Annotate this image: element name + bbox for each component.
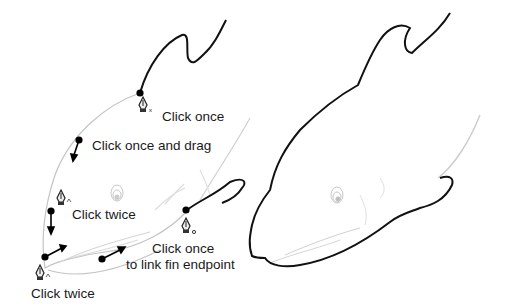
- pen-tool-icon-4: [36, 265, 50, 280]
- left-dolphin-eye: [111, 185, 123, 201]
- pen-tool-icon-1: x: [139, 97, 152, 113]
- pen-tool-icon-2: [57, 190, 71, 205]
- left-dorsal-fin-path: [140, 20, 226, 93]
- right-dolphin-outline-path: [250, 13, 453, 266]
- anchor-top: [136, 89, 143, 96]
- anchor-fin: [182, 206, 189, 213]
- label-click-once: Click once: [162, 109, 224, 124]
- dolphin-pen-tool-diagram: x: [0, 0, 505, 308]
- label-click-once-and-drag: Click once and drag: [92, 138, 211, 153]
- label-click-twice-lower: Click twice: [31, 286, 95, 301]
- left-pectoral-fin-path: [187, 180, 244, 210]
- label-click-once-link-line1: Click once: [152, 241, 214, 256]
- right-dolphin-sketch: [272, 115, 480, 262]
- pen-tool-icon-3: [182, 218, 196, 234]
- label-click-once-link-line2: to link fin endpoint: [126, 257, 235, 272]
- label-click-twice-upper: Click twice: [72, 207, 136, 222]
- svg-text:x: x: [149, 107, 152, 113]
